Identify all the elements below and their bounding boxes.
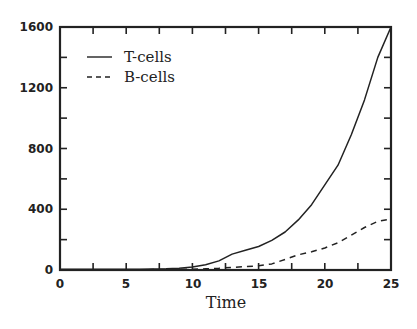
- x-tick-label: 20: [317, 277, 334, 291]
- x-tick-label: 10: [185, 277, 202, 291]
- x-tick-label: 25: [383, 277, 400, 291]
- y-tick-label: 0: [45, 263, 53, 277]
- y-tick-label: 400: [28, 202, 53, 216]
- line-chart: 0 5 10 15 20 25 0 400 800 1200 1600 Time…: [0, 0, 417, 329]
- x-tick-label: 0: [56, 277, 64, 291]
- axis-ticks: [60, 27, 391, 270]
- legend-label-b-cells: B-cells: [124, 68, 175, 86]
- x-tick-label: 15: [251, 277, 268, 291]
- legend-label-t-cells: T-cells: [124, 48, 172, 66]
- y-tick-label: 1200: [20, 81, 53, 95]
- y-tick-label: 800: [28, 142, 53, 156]
- plot-lines: [60, 27, 391, 270]
- series-line-t-cells: [60, 27, 391, 269]
- x-axis-title: Time: [206, 293, 246, 312]
- plot-frame: [60, 27, 391, 270]
- x-tick-label: 5: [122, 277, 130, 291]
- y-tick-label: 1600: [20, 20, 53, 34]
- series-line-b-cells: [60, 219, 391, 270]
